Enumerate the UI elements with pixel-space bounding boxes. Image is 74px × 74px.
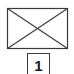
diagram-canvas: 1 — [0, 0, 74, 74]
label-number: 1 — [34, 58, 42, 73]
label-box: 1 — [27, 53, 50, 74]
